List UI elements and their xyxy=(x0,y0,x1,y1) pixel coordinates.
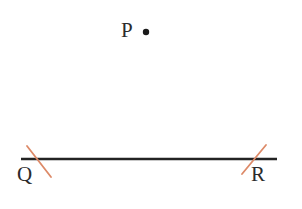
geometry-figure: P Q R xyxy=(0,0,302,209)
point-label-r: R xyxy=(251,164,265,185)
point-label-p: P xyxy=(121,20,133,41)
point-p-dot-icon xyxy=(143,29,149,35)
point-label-q: Q xyxy=(17,164,32,185)
